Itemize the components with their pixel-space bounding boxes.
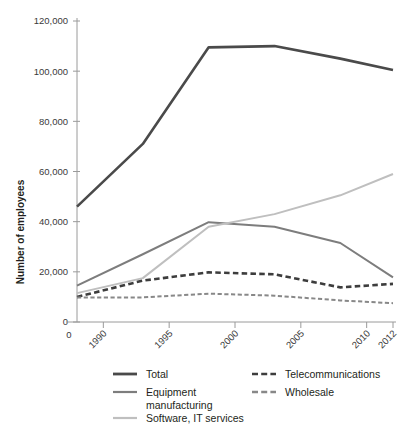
- x-tick-label: 1995: [152, 328, 175, 351]
- chart-canvas: Number of employees 020,00040,00060,0008…: [0, 0, 411, 426]
- legend-label: Equipment: [146, 386, 196, 398]
- legend-label-continued: manufacturing: [146, 399, 213, 411]
- legend-label: Software, IT services: [146, 412, 244, 424]
- y-axis-ticks: 020,00040,00060,00080,000100,000120,000: [34, 15, 80, 327]
- x-tick-label: 2010: [349, 328, 372, 351]
- series-line-equipment-manufacturing: [77, 222, 393, 285]
- y-tick-label: 80,000: [39, 116, 68, 127]
- series-line-telecommunications: [77, 272, 393, 297]
- series-line-total: [77, 46, 393, 207]
- y-tick-label: 40,000: [39, 216, 68, 227]
- legend-label: Telecommunications: [285, 368, 380, 380]
- y-tick-label: 120,000: [34, 15, 68, 26]
- series-line-software-it-services: [77, 174, 393, 293]
- legend-label: Total: [146, 368, 168, 380]
- y-axis-title: Number of employees: [15, 179, 26, 284]
- series-lines: [77, 46, 393, 303]
- y-tick-label: 20,000: [39, 266, 68, 277]
- x-axis-ticks: 0199019952000200520102012: [66, 322, 398, 350]
- x-tick-label: 2005: [284, 328, 307, 351]
- chart-legend: TotalEquipmentmanufacturingSoftware, IT …: [113, 368, 380, 424]
- x-tick-label: 1990: [86, 328, 109, 351]
- x-origin-label: 0: [66, 329, 71, 340]
- y-tick-label: 100,000: [34, 66, 68, 77]
- series-line-wholesale: [77, 294, 393, 304]
- x-tick-label: 2000: [218, 328, 241, 351]
- y-tick-label: 60,000: [39, 166, 68, 177]
- line-chart-employees: Number of employees 020,00040,00060,0008…: [0, 0, 411, 426]
- x-tick-label: 2012: [376, 328, 399, 351]
- legend-label: Wholesale: [285, 386, 334, 398]
